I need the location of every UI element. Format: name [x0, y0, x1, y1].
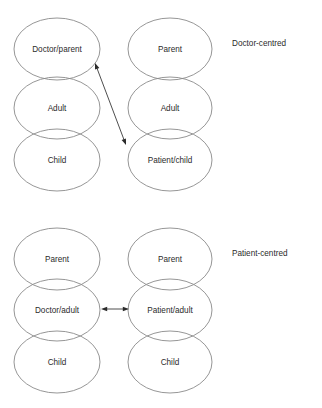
ellipse-label: Adult: [48, 104, 67, 113]
group-label-doctor-centred: Doctor-centred: [232, 39, 287, 48]
arrow-doctor-adult-to-patient-adult: [101, 307, 129, 312]
arrow-head-start: [95, 63, 99, 70]
ego-state-doctor-centred-right-patient-child: Patient/child: [128, 129, 212, 191]
ellipse-label: Parent: [158, 45, 183, 54]
diagram-group-doctor-centred: Doctor/parentAdultChildParentAdultPatien…: [14, 18, 287, 191]
ellipse-label: Child: [48, 156, 67, 165]
ellipse-label: Patient/adult: [147, 306, 193, 315]
ellipse-label: Parent: [158, 255, 183, 264]
ellipse-label: Child: [48, 358, 67, 367]
arrow-shaft: [97, 68, 124, 141]
arrow-head-end: [122, 138, 126, 145]
ego-state-doctor-centred-right-parent: Parent: [128, 18, 212, 80]
ellipse-label: Patient/child: [148, 156, 193, 165]
diagram-canvas: Doctor/parentAdultChildParentAdultPatien…: [0, 0, 322, 408]
diagram-root: Doctor/parentAdultChildParentAdultPatien…: [0, 0, 322, 408]
ego-state-patient-centred-right-child: Child: [128, 331, 212, 393]
group-label-patient-centred: Patient-centred: [232, 249, 288, 258]
ellipse-label: Parent: [45, 255, 70, 264]
ellipse-label: Doctor/adult: [35, 306, 80, 315]
ego-state-patient-centred-left-child: Child: [14, 331, 100, 393]
diagram-group-patient-centred: ParentDoctor/adultChildParentPatient/adu…: [14, 228, 288, 393]
ego-state-doctor-centred-left-child: Child: [14, 129, 100, 191]
ellipse-label: Adult: [161, 104, 180, 113]
ego-state-doctor-centred-left-doctor-parent: Doctor/parent: [14, 18, 100, 80]
ellipse-label: Doctor/parent: [32, 45, 82, 54]
arrow-head-start: [101, 307, 107, 312]
ellipse-label: Child: [161, 358, 180, 367]
